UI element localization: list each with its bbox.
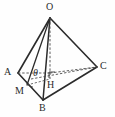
geometry-figure: O A B C M H θ (0, 0, 115, 117)
vertex-label-C: C (100, 61, 107, 71)
angle-label-theta: θ (33, 68, 38, 78)
vertex-label-H: H (47, 80, 54, 90)
edge-OC (50, 18, 97, 67)
figure-canvas (0, 0, 115, 117)
vertex-label-M: M (15, 86, 24, 96)
vertex-label-A: A (4, 67, 11, 77)
vertex-label-B: B (39, 103, 46, 113)
vertex-label-O: O (46, 2, 53, 12)
